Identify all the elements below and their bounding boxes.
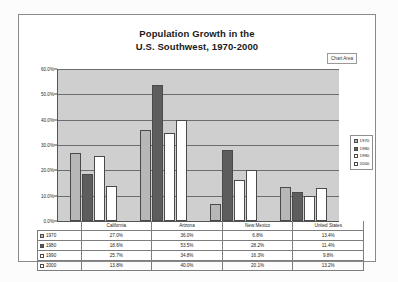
bar[interactable] — [316, 188, 327, 221]
chart-frame: Population Growth in the U.S. Southwest,… — [18, 14, 376, 262]
legend-swatch — [354, 154, 358, 158]
legend-swatch — [354, 139, 358, 143]
bar[interactable] — [94, 156, 105, 221]
table-row-year: 1990 — [46, 253, 56, 258]
bar[interactable] — [152, 85, 163, 221]
table-legend-swatch — [40, 254, 44, 258]
y-axis-tick-mark — [54, 145, 57, 146]
table-column-header: New Mexico — [222, 221, 293, 231]
table-row: 199025.7%34.8%16.3%9.8% — [38, 251, 364, 261]
bar[interactable] — [234, 180, 245, 221]
legend-label: 1990 — [360, 153, 370, 159]
bar-group — [269, 69, 339, 221]
chart-title: Population Growth in the U.S. Southwest,… — [19, 27, 375, 53]
legend-item[interactable]: 1980 — [354, 146, 370, 152]
table-cell: 13.2% — [293, 261, 364, 271]
table-cell: 34.8% — [152, 251, 223, 261]
table-cell: 9.8% — [293, 251, 364, 261]
table-legend-swatch — [40, 234, 44, 238]
table-cell: 25.7% — [81, 251, 152, 261]
legend-label: 2000 — [360, 161, 370, 167]
chart-legend: 1970198019902000 — [350, 135, 373, 170]
table-cell: 40.0% — [152, 261, 223, 271]
table-header-row: CaliforniaArizonaNew MexicoUnited States — [38, 221, 364, 231]
bar[interactable] — [280, 187, 291, 221]
chart-title-line-1: Population Growth in the — [19, 27, 375, 40]
table-cell: 27.0% — [81, 231, 152, 241]
table-cell: 6.8% — [222, 231, 293, 241]
legend-item[interactable]: 1990 — [354, 153, 370, 159]
bar[interactable] — [292, 192, 303, 221]
table-column-header: California — [81, 221, 152, 231]
table-row: 198018.6%53.5%28.2%11.4% — [38, 241, 364, 251]
y-axis-tick-mark — [54, 119, 57, 120]
bar-group — [199, 69, 269, 221]
legend-swatch — [354, 147, 358, 151]
table-row-header: 1980 — [38, 241, 82, 251]
y-axis-tick-label: 60.0% — [41, 67, 54, 72]
table-cell: 16.3% — [222, 251, 293, 261]
y-axis-tick-label: 40.0% — [41, 117, 54, 122]
table-legend-swatch — [40, 244, 44, 248]
y-axis-tick-mark — [54, 69, 57, 70]
table-cell: 36.0% — [152, 231, 223, 241]
bar[interactable] — [246, 170, 257, 221]
table-cell: 53.5% — [152, 241, 223, 251]
bar[interactable] — [304, 196, 315, 221]
bar[interactable] — [210, 204, 221, 221]
chart-title-line-2: U.S. Southwest, 1970-2000 — [19, 40, 375, 53]
legend-swatch — [354, 162, 358, 166]
y-axis-tick-mark — [54, 94, 57, 95]
bar[interactable] — [70, 153, 81, 221]
y-axis-tick-label: 50.0% — [41, 92, 54, 97]
table-row-year: 2000 — [46, 263, 56, 268]
scanned-page: Population Growth in the U.S. Southwest,… — [0, 0, 398, 282]
table-cell: 13.4% — [293, 231, 364, 241]
table-row-year: 1980 — [46, 243, 56, 248]
data-table: CaliforniaArizonaNew MexicoUnited States… — [37, 221, 364, 271]
table-row-header: 1970 — [38, 231, 82, 241]
table-row: 197027.0%36.0%6.8%13.4% — [38, 231, 364, 241]
y-axis-tick-mark — [54, 195, 57, 196]
y-axis-tick-label: 30.0% — [41, 143, 54, 148]
table-legend-swatch — [40, 264, 44, 268]
table-row-year: 1970 — [46, 233, 56, 238]
y-axis-tick-mark — [54, 170, 57, 171]
table-body: 197027.0%36.0%6.8%13.4%198018.6%53.5%28.… — [38, 231, 364, 271]
table-cell: 28.2% — [222, 241, 293, 251]
bar[interactable] — [176, 120, 187, 221]
table-column-header: Arizona — [152, 221, 223, 231]
y-axis-tick-label: 10.0% — [41, 193, 54, 198]
table-header: CaliforniaArizonaNew MexicoUnited States — [38, 221, 364, 231]
bar-group — [128, 69, 198, 221]
table-row-header: 2000 — [38, 261, 82, 271]
table-column-header: United States — [293, 221, 364, 231]
bar[interactable] — [82, 174, 93, 221]
table-cell: 18.6% — [81, 241, 152, 251]
table-corner-cell — [38, 221, 82, 231]
bar[interactable] — [106, 186, 117, 221]
table-cell: 11.4% — [293, 241, 364, 251]
plot-background — [57, 69, 339, 222]
chart-area-tooltip: Chart Area — [327, 53, 357, 64]
table-row: 200013.8%40.0%20.1%13.2% — [38, 261, 364, 271]
table-row-header: 1990 — [38, 251, 82, 261]
bar[interactable] — [222, 150, 233, 221]
bar[interactable] — [164, 133, 175, 221]
plot-area: 60.0%50.0%40.0%30.0%20.0%10.0%0.0% — [57, 69, 338, 221]
legend-label: 1980 — [360, 146, 370, 152]
table-cell: 20.1% — [222, 261, 293, 271]
legend-item[interactable]: 2000 — [354, 161, 370, 167]
bar-groups — [58, 69, 339, 221]
y-axis-tick-label: 20.0% — [41, 168, 54, 173]
legend-item[interactable]: 1970 — [354, 138, 370, 144]
bar-group — [58, 69, 128, 221]
table-cell: 13.8% — [81, 261, 152, 271]
legend-label: 1970 — [360, 138, 370, 144]
bar[interactable] — [140, 130, 151, 221]
